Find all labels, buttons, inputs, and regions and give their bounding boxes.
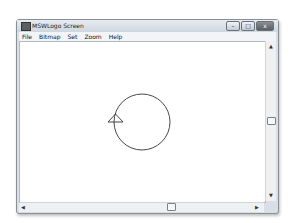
- mswlogo-window: MSWLogo Screen – □ x File Bitmap Set Zoo…: [16, 19, 279, 214]
- vertical-scroll-thumb[interactable]: [267, 117, 276, 125]
- turtle-graphics: [20, 42, 265, 202]
- menu-file[interactable]: File: [22, 32, 32, 41]
- drawing-canvas[interactable]: [19, 41, 266, 203]
- menu-bar: File Bitmap Set Zoom Help: [19, 32, 276, 41]
- menu-help[interactable]: Help: [109, 32, 123, 41]
- menu-bitmap[interactable]: Bitmap: [39, 32, 60, 41]
- horizontal-scrollbar[interactable]: ◀ ▶: [19, 202, 264, 212]
- minimize-button[interactable]: –: [226, 21, 240, 31]
- menu-zoom[interactable]: Zoom: [84, 32, 101, 41]
- scroll-down-icon[interactable]: ▼: [269, 192, 273, 198]
- title-bar[interactable]: MSWLogo Screen – □ x: [17, 20, 278, 32]
- scroll-left-icon[interactable]: ◀: [21, 204, 25, 210]
- vertical-scrollbar[interactable]: ▲ ▼: [265, 41, 276, 201]
- window-title: MSWLogo Screen: [32, 21, 84, 31]
- scroll-right-icon[interactable]: ▶: [255, 204, 259, 210]
- app-icon: [21, 22, 31, 31]
- turtle-icon: [108, 114, 123, 122]
- horizontal-scroll-thumb[interactable]: [167, 203, 176, 211]
- menu-set[interactable]: Set: [68, 32, 78, 41]
- scroll-up-icon[interactable]: ▲: [269, 43, 273, 49]
- maximize-button[interactable]: □: [241, 21, 255, 31]
- window-controls: – □ x: [226, 21, 274, 31]
- close-button[interactable]: x: [256, 21, 274, 31]
